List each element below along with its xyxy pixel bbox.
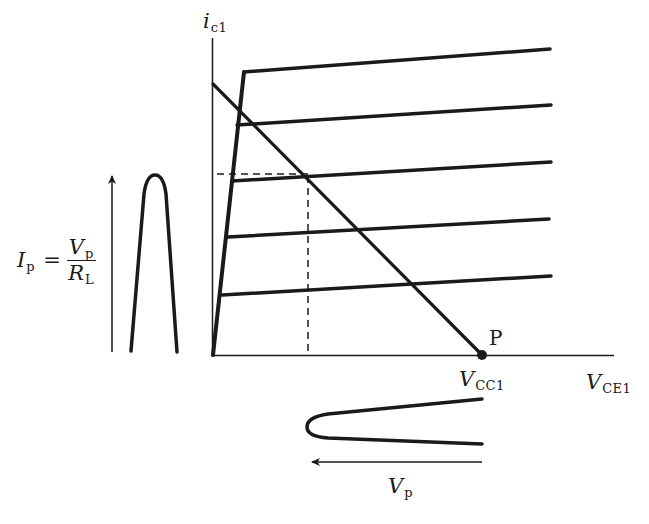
characteristic-diagram — [0, 0, 649, 524]
formula-fraction: Vp RL — [67, 237, 96, 284]
formula-lhs-sub: p — [26, 259, 35, 274]
vcc1-label-sub: CC1 — [475, 378, 505, 393]
y-axis-label-sub: c1 — [211, 20, 228, 35]
voltage-waveform — [307, 399, 482, 444]
formula-lhs-main: I — [17, 248, 25, 272]
vcc1-label-main: V — [459, 367, 474, 391]
x-axis-label: VCE1 — [586, 372, 631, 393]
voltage-swing-label-sub: p — [404, 485, 413, 500]
formula-den-main: R — [68, 261, 84, 285]
formula-num-main: V — [69, 235, 84, 259]
formula-equals: = — [43, 250, 61, 271]
current-formula: Ip = Vp RL — [17, 237, 96, 284]
characteristic-curve-1 — [244, 49, 550, 72]
characteristic-curve-3 — [232, 162, 551, 181]
characteristic-curve-5 — [222, 276, 551, 295]
load-line — [213, 84, 482, 355]
point-p-label: P — [489, 328, 502, 348]
y-axis-label: ic1 — [203, 11, 227, 32]
current-pulse-waveform — [131, 175, 177, 352]
characteristic-curve-4 — [228, 219, 549, 237]
voltage-swing-label: Vp — [388, 476, 413, 497]
vcc1-label: VCC1 — [459, 369, 505, 390]
formula-lhs: Ip — [17, 250, 35, 271]
x-axis-label-sub: CE1 — [602, 381, 631, 396]
x-axis-label-main: V — [586, 370, 601, 394]
voltage-swing-label-main: V — [388, 474, 403, 498]
formula-num-sub: p — [85, 246, 94, 261]
y-axis-label-main: i — [203, 9, 210, 33]
saturation-line — [213, 72, 244, 355]
formula-den-sub: L — [85, 272, 94, 287]
operating-point-p — [477, 350, 487, 360]
formula-numerator: Vp — [67, 237, 96, 261]
formula-denominator: RL — [68, 261, 94, 284]
characteristic-curve-2 — [237, 105, 551, 125]
